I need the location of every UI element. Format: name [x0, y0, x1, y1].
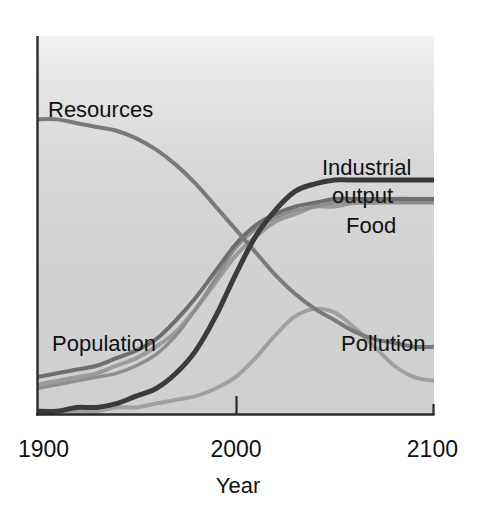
series-label-population: Population	[52, 331, 156, 356]
series-label-food: Food	[346, 213, 396, 238]
series-label-industrial-output-line1: Industrial	[322, 155, 411, 180]
series-label-resources: Resources	[48, 97, 153, 122]
xtick-label-2100: 2100	[407, 436, 458, 462]
series-label-pollution: Pollution	[341, 331, 425, 356]
xtick-label-1900: 1900	[18, 436, 69, 462]
limits-to-growth-chart: 1900 2000 2100 Year Resources Industrial…	[0, 0, 478, 505]
chart-figure: 1900 2000 2100 Year Resources Industrial…	[0, 0, 478, 505]
series-label-industrial-output-line2: output	[332, 183, 393, 208]
x-axis-title: Year	[216, 473, 260, 498]
xtick-label-2000: 2000	[210, 436, 261, 462]
